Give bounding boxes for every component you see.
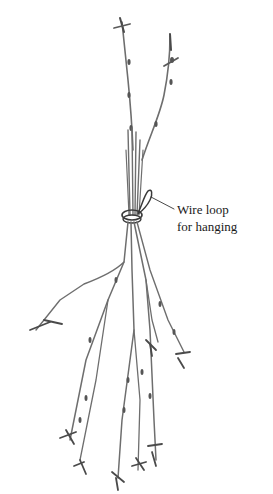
upper-stem-right <box>142 34 178 160</box>
herb-bundle-illustration <box>0 0 273 494</box>
bundle-stems <box>126 128 143 215</box>
upper-stem-left <box>114 18 133 150</box>
callout-line-2: for hanging <box>177 218 237 235</box>
callout-line-1: Wire loop <box>177 201 237 218</box>
leaf-buds <box>30 320 190 490</box>
callout-label: Wire loop for hanging <box>177 201 237 235</box>
lower-stems <box>36 222 184 478</box>
callout-leader-line <box>151 197 174 209</box>
